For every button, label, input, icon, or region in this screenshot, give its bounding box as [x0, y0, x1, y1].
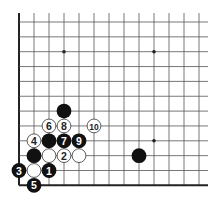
- white-stone-icon: [27, 164, 41, 178]
- white-stone: [42, 149, 56, 163]
- white-stone: [72, 149, 86, 163]
- black-stone: 5: [27, 178, 42, 193]
- move-number-label: 4: [31, 135, 37, 147]
- black-stone-icon: [57, 104, 72, 119]
- black-stone: [132, 148, 147, 163]
- move-number-label: 2: [61, 150, 67, 162]
- black-stone: 9: [72, 133, 87, 148]
- black-stone: [27, 148, 42, 163]
- white-stone: 4: [27, 134, 41, 148]
- white-stone: 6: [42, 119, 56, 133]
- move-number-label: 5: [31, 179, 37, 191]
- white-stone: 10: [87, 119, 101, 133]
- black-stone-icon: [27, 148, 42, 163]
- go-board-diagram: 68104792315: [0, 0, 221, 201]
- black-stone-icon: [42, 133, 57, 148]
- white-stone-icon: [72, 149, 86, 163]
- black-stone: 3: [12, 163, 27, 178]
- move-number-label: 10: [89, 122, 99, 132]
- move-number-label: 8: [61, 120, 67, 132]
- move-number-label: 6: [46, 120, 52, 132]
- star-point-icon: [152, 50, 156, 54]
- board-svg: 68104792315: [0, 0, 221, 201]
- white-stone: [27, 164, 41, 178]
- black-stone: [57, 104, 72, 119]
- move-number-label: 3: [16, 165, 22, 177]
- star-point-icon: [152, 139, 156, 143]
- move-number-label: 9: [76, 135, 82, 147]
- black-stone: 1: [42, 163, 57, 178]
- move-number-label: 1: [46, 165, 52, 177]
- black-stone-icon: [132, 148, 147, 163]
- move-number-label: 7: [61, 135, 67, 147]
- white-stone: 2: [57, 149, 71, 163]
- black-stone: [42, 133, 57, 148]
- black-stone: 7: [57, 133, 72, 148]
- white-stone-icon: [42, 149, 56, 163]
- star-point-icon: [62, 50, 66, 54]
- white-stone: 8: [57, 119, 71, 133]
